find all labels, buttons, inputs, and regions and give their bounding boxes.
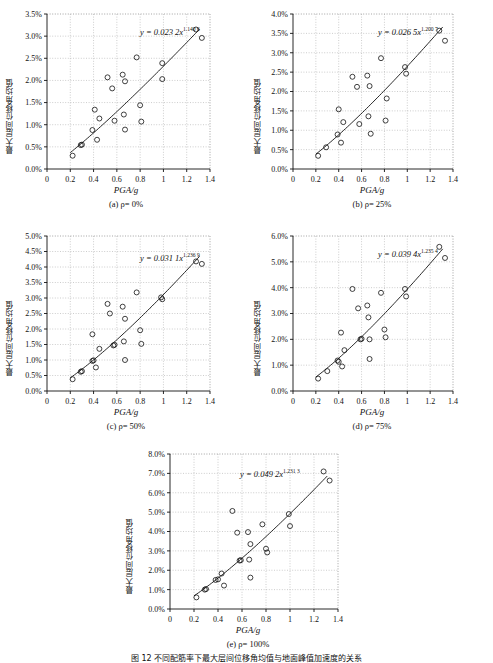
plot-area-b: 0.0%0.5%1.0%1.5%2.0%2.5%3.0%3.5%4.0%00.2…: [248, 0, 493, 200]
svg-text:1.0%: 1.0%: [25, 121, 42, 130]
svg-text:4.0%: 4.0%: [271, 284, 288, 293]
svg-text:0.8: 0.8: [135, 397, 145, 406]
svg-text:1.4: 1.4: [205, 397, 215, 406]
svg-text:0.2: 0.2: [311, 175, 321, 184]
chart-panel-d: 最大层间位移角均值 0.0%1.0%2.0%3.0%4.0%5.0%6.0%00…: [248, 222, 493, 437]
svg-text:6.0%: 6.0%: [148, 489, 165, 498]
svg-text:0: 0: [291, 175, 295, 184]
svg-text:0.8: 0.8: [135, 175, 145, 184]
svg-text:2.0%: 2.0%: [148, 566, 165, 575]
svg-text:1.0%: 1.0%: [148, 586, 165, 595]
svg-text:0.0%: 0.0%: [25, 165, 42, 174]
svg-text:4.5%: 4.5%: [25, 247, 42, 256]
svg-text:2.5%: 2.5%: [25, 309, 42, 318]
svg-text:1: 1: [161, 175, 165, 184]
plot-area-d: 0.0%1.0%2.0%3.0%4.0%5.0%6.0%00.20.40.60.…: [248, 222, 493, 422]
svg-text:0: 0: [45, 397, 49, 406]
svg-text:5.0%: 5.0%: [271, 258, 288, 267]
svg-text:0.6: 0.6: [112, 175, 122, 184]
svg-text:3.0%: 3.0%: [25, 32, 42, 41]
svg-text:1.5%: 1.5%: [25, 98, 42, 107]
svg-text:0.8: 0.8: [379, 175, 389, 184]
svg-text:1.5%: 1.5%: [271, 107, 288, 116]
svg-text:2.0%: 2.0%: [25, 325, 42, 334]
svg-text:1: 1: [405, 397, 409, 406]
svg-text:0.4: 0.4: [89, 175, 99, 184]
figure-caption: 图 12 不同配筋率下最大层间位移角均值与地面峰值加速度的关系: [0, 652, 493, 663]
svg-text:1.4: 1.4: [448, 397, 458, 406]
svg-text:1.2: 1.2: [182, 397, 192, 406]
svg-text:0.2: 0.2: [65, 397, 75, 406]
svg-text:0.8: 0.8: [379, 397, 389, 406]
svg-text:1: 1: [161, 397, 165, 406]
x-axis-label-b: PGA/g: [324, 185, 420, 195]
scatter-svg-b: 0.0%0.5%1.0%1.5%2.0%2.5%3.0%3.5%4.0%00.2…: [248, 0, 493, 200]
subplot-caption-e: (e) ρ= 100%: [200, 639, 296, 649]
fit-equation-d: y = 0.039 4x1.235 4: [378, 248, 438, 259]
fit-equation-b: y = 0.026 5x1.200 7: [378, 26, 438, 37]
svg-text:0.6: 0.6: [237, 615, 247, 624]
scatter-svg-d: 0.0%1.0%2.0%3.0%4.0%5.0%6.0%00.20.40.60.…: [248, 222, 493, 422]
svg-text:7.0%: 7.0%: [148, 469, 165, 478]
svg-text:1.4: 1.4: [448, 175, 458, 184]
subplot-caption-d: (d) ρ= 75%: [324, 421, 420, 431]
svg-text:0.4: 0.4: [334, 175, 344, 184]
svg-text:3.5%: 3.5%: [25, 278, 42, 287]
chart-panel-e: 最大层间位移角均值 0.0%1.0%2.0%3.0%4.0%5.0%6.0%7.…: [120, 440, 380, 655]
svg-text:0.0%: 0.0%: [271, 165, 288, 174]
scatter-svg-c: 0.0%0.5%1.0%1.5%2.0%2.5%3.0%3.5%4.0%4.5%…: [0, 222, 250, 422]
svg-text:5.0%: 5.0%: [25, 232, 42, 241]
svg-text:1.0%: 1.0%: [271, 361, 288, 370]
fit-equation-e: y = 0.049 2x1.231 3: [240, 468, 300, 479]
svg-text:1: 1: [405, 175, 409, 184]
svg-text:2.0%: 2.0%: [25, 76, 42, 85]
svg-text:1.0%: 1.0%: [271, 126, 288, 135]
subplot-caption-b: (b) ρ= 25%: [324, 199, 420, 209]
svg-text:8.0%: 8.0%: [148, 450, 165, 459]
x-axis-label-c: PGA/g: [78, 407, 174, 417]
svg-text:0.6: 0.6: [357, 397, 367, 406]
svg-text:1.2: 1.2: [425, 175, 435, 184]
svg-text:1.2: 1.2: [425, 397, 435, 406]
svg-text:3.0%: 3.0%: [148, 547, 165, 556]
svg-text:2.0%: 2.0%: [271, 87, 288, 96]
svg-text:0.5%: 0.5%: [25, 371, 42, 380]
svg-text:0.2: 0.2: [189, 615, 199, 624]
chart-panel-a: 最大层间位移角均值 0.0%0.5%1.0%1.5%2.0%2.5%3.0%3.…: [0, 0, 250, 215]
svg-text:2.5%: 2.5%: [25, 54, 42, 63]
svg-text:4.0%: 4.0%: [25, 263, 42, 272]
svg-text:1.5%: 1.5%: [25, 340, 42, 349]
svg-text:0: 0: [45, 175, 49, 184]
svg-text:3.5%: 3.5%: [271, 29, 288, 38]
svg-text:1.4: 1.4: [205, 175, 215, 184]
svg-text:0.4: 0.4: [89, 397, 99, 406]
svg-text:2.0%: 2.0%: [271, 335, 288, 344]
svg-text:0.0%: 0.0%: [271, 387, 288, 396]
svg-text:1: 1: [288, 615, 292, 624]
svg-text:1.4: 1.4: [333, 615, 343, 624]
svg-text:1.2: 1.2: [309, 615, 319, 624]
plot-area-a: 0.0%0.5%1.0%1.5%2.0%2.5%3.0%3.5%00.20.40…: [0, 0, 250, 200]
svg-text:0.2: 0.2: [311, 397, 321, 406]
svg-text:0.4: 0.4: [213, 615, 223, 624]
chart-panel-c: 最大层间位移角均值 0.0%0.5%1.0%1.5%2.0%2.5%3.0%3.…: [0, 222, 250, 437]
svg-text:0: 0: [168, 615, 172, 624]
fit-equation-a: y = 0.023 2x1.140 6: [140, 26, 200, 37]
subplot-caption-a: (a) ρ= 0%: [78, 199, 174, 209]
svg-text:2.5%: 2.5%: [271, 68, 288, 77]
fit-equation-c: y = 0.031 1x1.236 9: [140, 252, 200, 263]
x-axis-label-d: PGA/g: [324, 407, 420, 417]
svg-text:0.8: 0.8: [261, 615, 271, 624]
svg-text:1.2: 1.2: [182, 175, 192, 184]
svg-text:0.2: 0.2: [65, 175, 75, 184]
scatter-svg-a: 0.0%0.5%1.0%1.5%2.0%2.5%3.0%3.5%00.20.40…: [0, 0, 250, 200]
plot-area-c: 0.0%0.5%1.0%1.5%2.0%2.5%3.0%3.5%4.0%4.5%…: [0, 222, 250, 422]
svg-text:0: 0: [291, 397, 295, 406]
svg-text:3.0%: 3.0%: [271, 309, 288, 318]
subplot-caption-c: (c) ρ= 50%: [78, 421, 174, 431]
x-axis-label-a: PGA/g: [78, 185, 174, 195]
svg-text:1.0%: 1.0%: [25, 356, 42, 365]
svg-text:0.5%: 0.5%: [271, 146, 288, 155]
svg-text:4.0%: 4.0%: [148, 527, 165, 536]
svg-text:3.0%: 3.0%: [25, 294, 42, 303]
